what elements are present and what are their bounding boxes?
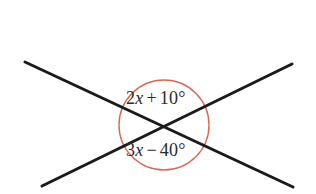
angle-label-bottom-constant: 40° [160, 140, 186, 160]
angle-label-top: 2x+10° [126, 89, 186, 107]
angle-label-bottom-coefficient: 3 [126, 140, 135, 160]
angle-label-top-coefficient: 2 [126, 88, 135, 108]
angle-label-top-variable: x [135, 88, 143, 108]
angle-label-bottom-operator: − [146, 140, 156, 160]
geometry-figure: 2x+10° 3x−40° [0, 0, 316, 194]
angle-label-bottom-variable: x [135, 140, 143, 160]
angle-label-top-constant: 10° [160, 88, 186, 108]
angle-label-bottom: 3x−40° [126, 141, 186, 159]
angle-label-top-operator: + [146, 88, 156, 108]
